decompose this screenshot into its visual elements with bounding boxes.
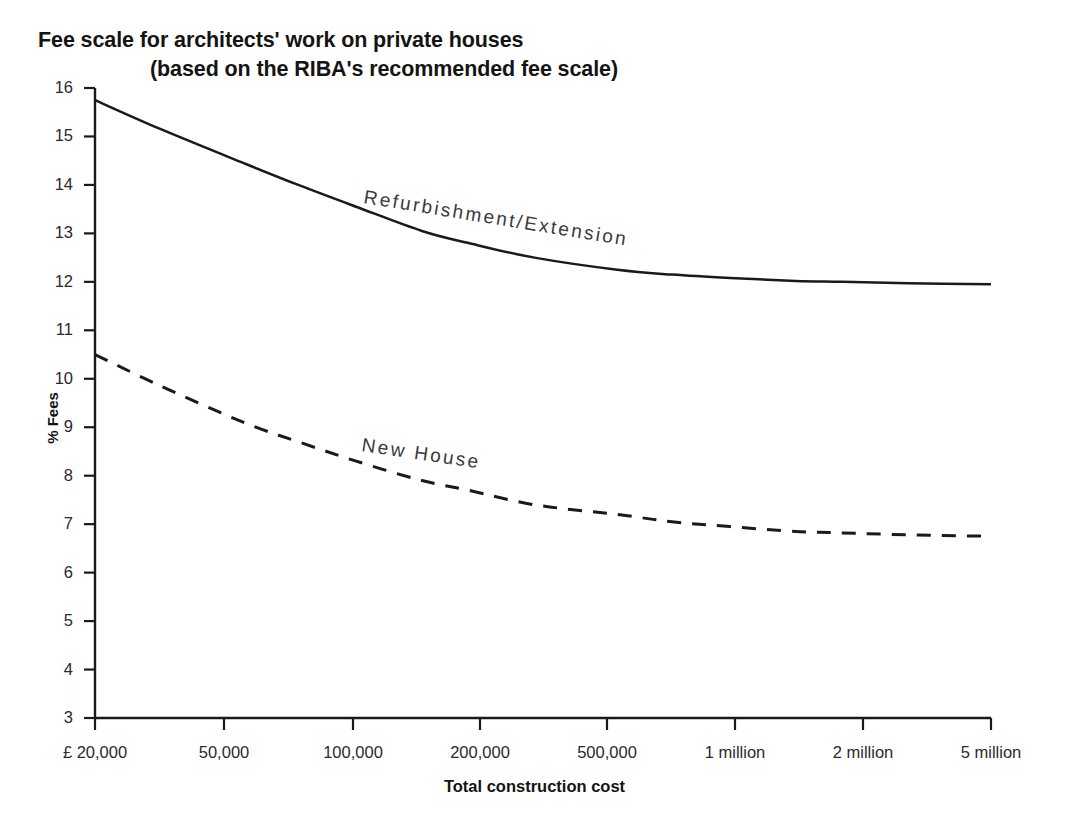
y-axis-tick-label: 5 <box>33 612 73 629</box>
x-axis-tick-label: 50,000 <box>199 744 249 761</box>
series-line-refurbishment-extension <box>95 100 991 284</box>
y-axis-tick-label: 9 <box>33 418 73 435</box>
y-axis-tick-label: 4 <box>33 661 73 678</box>
plot-area <box>0 0 1069 814</box>
y-axis-tick-label: 11 <box>33 321 73 338</box>
y-axis-tick-label: 10 <box>33 370 73 387</box>
y-axis-tick-label: 15 <box>33 127 73 144</box>
y-axis-tick-label: 16 <box>33 79 73 96</box>
series-line-new-house <box>95 355 991 537</box>
axes-lines <box>95 88 991 718</box>
y-axis-tick-label: 6 <box>33 564 73 581</box>
y-axis-tick-label: 7 <box>33 515 73 532</box>
y-axis-tick-label: 3 <box>33 709 73 726</box>
x-axis-tick-label: 200,000 <box>450 744 510 761</box>
x-axis-tick-label: 100,000 <box>323 744 383 761</box>
x-axis-tick-label: 2 million <box>833 744 894 761</box>
y-axis-tick-label: 12 <box>33 273 73 290</box>
x-axis-tick-label: 1 million <box>705 744 766 761</box>
y-axis-tick-label: 13 <box>33 224 73 241</box>
y-axis-ticks <box>84 88 95 718</box>
x-axis-ticks <box>95 718 991 730</box>
chart-figure: Fee scale for architects' work on privat… <box>0 0 1069 814</box>
x-axis-tick-label: 5 million <box>961 744 1022 761</box>
y-axis-tick-label: 8 <box>33 467 73 484</box>
x-axis-tick-label: £ 20,000 <box>63 744 127 761</box>
x-axis-tick-label: 500,000 <box>577 744 637 761</box>
y-axis-tick-label: 14 <box>33 176 73 193</box>
